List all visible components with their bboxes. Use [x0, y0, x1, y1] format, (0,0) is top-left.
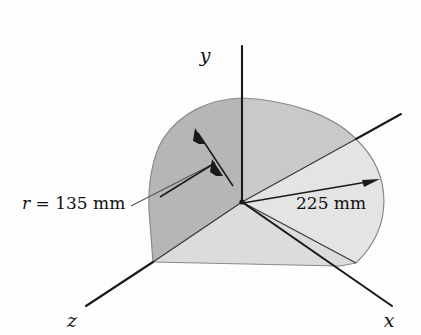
radius-135-label: r = 135 mm	[22, 193, 125, 213]
z-axis-label: z	[66, 309, 78, 331]
figure-canvas: y z x r = 135 mm 225 mm	[0, 0, 421, 335]
edge-upper-right-extension	[356, 114, 401, 139]
radius-135-value: 135 mm	[55, 193, 125, 213]
y-axis-label: y	[199, 44, 211, 66]
radius-135-equals: =	[30, 193, 55, 213]
x-axis-label: x	[384, 309, 395, 331]
diagram-svg: y z x r = 135 mm 225 mm	[0, 0, 421, 335]
origin-vertex-dot	[239, 199, 244, 204]
radius-225-label: 225 mm	[296, 193, 366, 213]
z-axis-line	[86, 262, 153, 306]
